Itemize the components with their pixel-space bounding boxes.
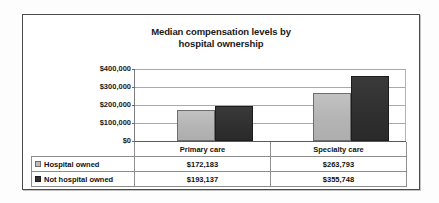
chart-title: Median compensation levels by hospital o…	[23, 26, 419, 50]
table-row-categories: Primary care Specialty care	[32, 142, 407, 157]
legend-item-hospital-owned: Hospital owned	[32, 157, 135, 172]
table-row: Not hospital owned $193,137 $355,748	[32, 172, 407, 187]
y-tick-label-100000: $100,000	[100, 119, 131, 127]
y-tick-label-400000: $400,000	[100, 65, 131, 73]
bar-hospital-owned-primary-care	[177, 110, 215, 141]
chart-data-table: Primary care Specialty care Hospital own…	[31, 142, 407, 187]
category-header-primary-care: Primary care	[135, 142, 271, 157]
y-tick-mark-100000	[132, 123, 135, 124]
value-hospital-owned-specialty-care: $263,793	[271, 157, 407, 172]
y-tick-mark-400000	[132, 69, 135, 70]
bar-not-hospital-owned-specialty-care	[351, 76, 389, 141]
y-tick-mark-200000	[132, 105, 135, 106]
gridline-400000	[135, 69, 406, 70]
table-corner-cell	[32, 142, 135, 157]
value-not-hospital-owned-specialty-care: $355,748	[271, 172, 407, 187]
legend-label-hospital-owned: Hospital owned	[44, 160, 99, 169]
chart-title-line-1: Median compensation levels by	[23, 26, 419, 38]
chart-title-line-2: hospital ownership	[23, 38, 419, 50]
value-hospital-owned-primary-care: $172,183	[135, 157, 271, 172]
y-tick-mark-300000	[132, 87, 135, 88]
plot-area	[134, 69, 406, 142]
bar-not-hospital-owned-primary-care	[215, 106, 253, 141]
legend-swatch-dark-icon	[35, 176, 41, 182]
table-row: Hospital owned $172,183 $263,793	[32, 157, 407, 172]
y-axis-labels: $400,000 $300,000 $200,000 $100,000 $0	[67, 69, 131, 143]
legend-swatch-light-icon	[35, 161, 41, 167]
legend-label-not-hospital-owned: Not hospital owned	[44, 175, 113, 184]
y-tick-label-300000: $300,000	[100, 83, 131, 91]
chart-screenshot: Median compensation levels by hospital o…	[0, 0, 439, 203]
category-header-specialty-care: Specialty care	[271, 142, 407, 157]
y-tick-label-200000: $200,000	[100, 101, 131, 109]
legend-item-not-hospital-owned: Not hospital owned	[32, 172, 135, 187]
chart-figure-frame: Median compensation levels by hospital o…	[22, 14, 420, 190]
plot-area-wrapper	[134, 69, 406, 142]
bar-hospital-owned-specialty-care	[313, 93, 351, 141]
plot-right-border	[405, 69, 406, 141]
value-not-hospital-owned-primary-care: $193,137	[135, 172, 271, 187]
